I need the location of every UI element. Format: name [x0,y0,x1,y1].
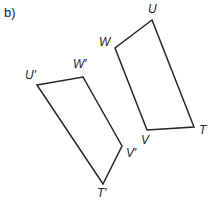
quadrilateral-UWVT-prime [37,77,122,184]
quadrilateral-UWVT [115,20,194,130]
part-label-b: b) [4,6,16,19]
shapes-canvas [0,0,216,202]
vertex-label-T-prime: T′ [97,187,107,199]
vertex-label-U-prime: U′ [25,69,36,81]
vertex-label-T: T [199,124,206,136]
geometry-figure: b) U W V T U′ W′ V′ T′ [0,0,216,202]
vertex-label-V-prime: V′ [126,147,136,159]
vertex-label-W-prime: W′ [73,58,87,70]
vertex-label-U: U [148,3,157,15]
vertex-label-V: V [141,134,149,146]
vertex-label-W: W [99,36,110,48]
